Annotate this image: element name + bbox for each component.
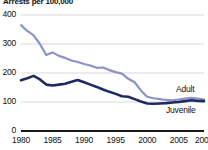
series-label-juvenile: Juvenile [166, 106, 196, 115]
x-tick-label: 1990 [71, 136, 97, 145]
x-tick-label: 1985 [40, 136, 66, 145]
x-tick-label: 2009 [191, 136, 208, 145]
arrest-rate-line-chart: Arrests per 100,000 0100200300400 198019… [0, 0, 208, 150]
y-tick-label: 400 [0, 10, 16, 19]
y-tick-label: 200 [0, 68, 16, 77]
y-tick-label: 300 [0, 39, 16, 48]
y-tick-label: 100 [0, 97, 16, 106]
x-tick-label: 2005 [166, 136, 192, 145]
x-tick-label: 1995 [103, 136, 129, 145]
x-tick-label: 1980 [8, 136, 34, 145]
y-tick-label: 0 [0, 126, 16, 135]
series-label-adult: Adult [176, 85, 194, 94]
chart-plot-area [0, 0, 208, 150]
x-tick-label: 2000 [134, 136, 160, 145]
